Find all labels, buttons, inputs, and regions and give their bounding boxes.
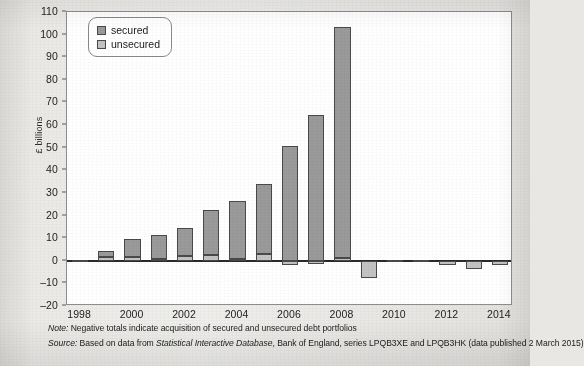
bar-group bbox=[256, 12, 272, 305]
x-tick-label: 2014 bbox=[487, 308, 511, 320]
y-tick-label: –20 bbox=[24, 299, 58, 311]
chart-area: £ billions 1101009080706050403020100–10–… bbox=[0, 0, 530, 322]
bar-segment-unsecured bbox=[413, 260, 429, 262]
bar-segment-secured bbox=[151, 235, 167, 259]
bar-segment-unsecured bbox=[282, 261, 298, 265]
legend-label: secured bbox=[111, 24, 148, 36]
x-tick-label: 2012 bbox=[435, 308, 459, 320]
x-tick-label: 2006 bbox=[277, 308, 301, 320]
x-tick-label: 2004 bbox=[225, 308, 249, 320]
x-tick-label: 2000 bbox=[120, 308, 144, 320]
bar-segment-unsecured bbox=[98, 257, 114, 261]
bar-group bbox=[72, 12, 88, 305]
bar-segment-secured bbox=[229, 201, 245, 259]
y-tick-label: 80 bbox=[24, 73, 58, 85]
bar-segment-unsecured bbox=[466, 261, 482, 269]
bar-segment-secured bbox=[282, 146, 298, 260]
bar-segment-unsecured bbox=[334, 258, 350, 261]
legend-item-secured: secured bbox=[97, 23, 160, 37]
bar-segment-secured bbox=[177, 228, 193, 256]
bar-segment-unsecured bbox=[387, 260, 403, 262]
y-tick-label: 100 bbox=[24, 28, 58, 40]
source-text-a: Based on data from bbox=[77, 338, 156, 348]
bar-segment-unsecured bbox=[151, 259, 167, 261]
bar-group bbox=[387, 12, 403, 305]
note-text: Negative totals indicate acquisition of … bbox=[68, 323, 356, 333]
chart-legend: securedunsecured bbox=[88, 17, 172, 57]
y-tick-label: 60 bbox=[24, 118, 58, 130]
bar-segment-secured bbox=[334, 27, 350, 258]
legend-swatch-icon bbox=[97, 40, 106, 49]
y-tick-label: 30 bbox=[24, 186, 58, 198]
bar-group bbox=[308, 12, 324, 305]
bar-segment-unsecured bbox=[203, 255, 219, 260]
note-line: Note: Negative totals indicate acquisiti… bbox=[48, 322, 518, 334]
x-tick-label: 1998 bbox=[67, 308, 91, 320]
bar-segment-unsecured bbox=[124, 257, 140, 260]
bar-segment-unsecured bbox=[72, 260, 88, 262]
y-tick-label: 70 bbox=[24, 95, 58, 107]
y-tick-label: 20 bbox=[24, 209, 58, 221]
bar-segment-unsecured bbox=[361, 261, 377, 278]
bar-segment-secured bbox=[308, 115, 324, 261]
source-label: Source: bbox=[48, 338, 77, 348]
bar-segment-unsecured bbox=[256, 254, 272, 261]
bar-group bbox=[334, 12, 350, 305]
note-label: Note: bbox=[48, 323, 68, 333]
bar-segment-unsecured bbox=[492, 261, 508, 266]
bar-group bbox=[466, 12, 482, 305]
bar-group bbox=[177, 12, 193, 305]
bar-group bbox=[439, 12, 455, 305]
bar-segment-unsecured bbox=[308, 261, 324, 264]
bar-segment-unsecured bbox=[439, 261, 455, 266]
legend-label: unsecured bbox=[111, 38, 160, 50]
y-tick-label: 90 bbox=[24, 50, 58, 62]
chart-footnotes: Note: Negative totals indicate acquisiti… bbox=[48, 322, 518, 353]
bar-group bbox=[361, 12, 377, 305]
y-tick-label: 40 bbox=[24, 163, 58, 175]
x-tick-label: 2008 bbox=[330, 308, 354, 320]
y-tick-label: 10 bbox=[24, 231, 58, 243]
bar-segment-secured bbox=[98, 251, 114, 257]
y-tick-label: 50 bbox=[24, 141, 58, 153]
x-tick-label: 2002 bbox=[172, 308, 196, 320]
source-text-b: , Bank of England, series LPQB3XE and LP… bbox=[272, 338, 583, 348]
y-tick-label: 0 bbox=[24, 254, 58, 266]
y-tick-label: –10 bbox=[24, 276, 58, 288]
bar-segment-unsecured bbox=[177, 256, 193, 261]
bar-group bbox=[413, 12, 429, 305]
bar-group bbox=[203, 12, 219, 305]
y-tick-label: 110 bbox=[24, 5, 58, 17]
bar-group bbox=[492, 12, 508, 305]
bar-group bbox=[282, 12, 298, 305]
bar-segment-secured bbox=[256, 184, 272, 254]
bar-group bbox=[229, 12, 245, 305]
bar-segment-secured bbox=[124, 239, 140, 257]
source-publication-title: Statistical Interactive Database bbox=[156, 338, 272, 348]
source-line: Source: Based on data from Statistical I… bbox=[48, 337, 518, 349]
bar-segment-unsecured bbox=[229, 259, 245, 261]
bar-segment-secured bbox=[203, 210, 219, 255]
x-tick-label: 2010 bbox=[382, 308, 406, 320]
legend-item-unsecured: unsecured bbox=[97, 37, 160, 51]
legend-swatch-icon bbox=[97, 26, 106, 35]
